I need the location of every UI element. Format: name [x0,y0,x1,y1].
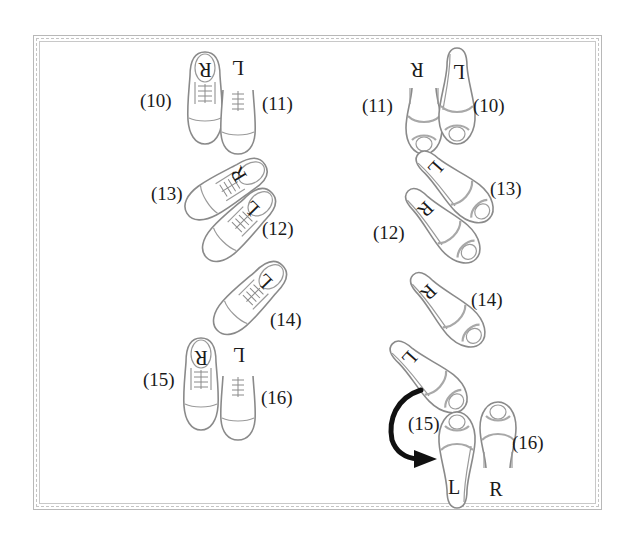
women-step-11-label: (11) [362,95,393,117]
women-step-14-label: (14) [471,289,503,311]
men-step-14-shoe: L (14) [205,253,301,342]
women-step-13-label: (13) [490,178,522,200]
women-step-11-shoe: R (11) [362,59,442,154]
men-step-13-label: (13) [151,183,183,205]
women-step-10-label: (10) [473,95,505,117]
women-step-10-foot-letter: L [453,61,465,83]
men-step-10-label: (10) [140,90,172,112]
men-step-16-label: (16) [261,387,293,409]
men-step-11-label: (11) [262,93,293,115]
women-step-12-label: (12) [373,222,405,244]
men-step-15-shoe: R (15) [143,338,218,430]
men-step-12-label: (12) [262,218,294,240]
men-step-10-foot-letter: R [198,59,212,81]
women-step-10-shoe: L (10) [439,48,505,144]
women-step-14-shoe: R (14) [400,262,502,355]
women-step-15-shoe: L [439,412,475,508]
women-step-16-label: (16) [512,432,544,454]
men-step-16-foot-letter: L [233,344,245,366]
men-step-10-shoe: R (10) [140,52,222,144]
women-step-15-label: (15) [408,413,440,435]
women-step-15-foot-letter: L [448,476,460,498]
men-step-15-label: (15) [143,369,175,391]
women-step-16-shoe: R (16) [480,402,544,500]
men-step-16-shoe: L (16) [221,344,293,440]
men-step-14-label: (14) [270,309,302,331]
men-step-15-foot-letter: R [194,347,208,369]
men-step-11-foot-letter: L [232,57,244,79]
footwork-diagram: R (10) L (11) R (13) L (12) L (14) R (15… [0,0,630,555]
women-step-16-foot-letter: R [489,478,503,500]
men-step-11-shoe: L (11) [221,57,293,154]
women-step-11-foot-letter: R [410,59,424,81]
